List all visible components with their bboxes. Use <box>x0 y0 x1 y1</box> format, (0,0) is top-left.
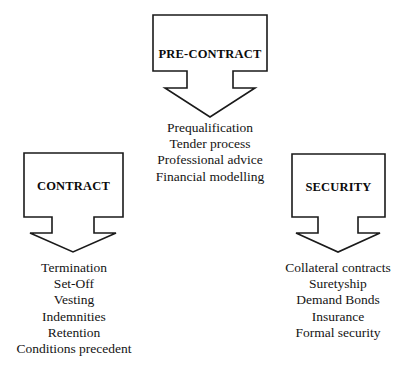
list-item: Termination <box>16 260 131 276</box>
box-arrow-outline <box>24 153 123 252</box>
pre-contract-box-with-arrow: PRE-CONTRACT <box>152 14 268 119</box>
contract-item-list: Termination Set-Off Vesting Indemnities … <box>16 260 131 357</box>
down-arrow-icon <box>291 153 386 253</box>
box-arrow-outline <box>292 154 385 252</box>
diagram-canvas: PRE-CONTRACT Prequalification Tender pro… <box>0 0 409 379</box>
box-arrow-outline <box>153 15 267 117</box>
list-item: Indemnities <box>16 309 131 325</box>
list-item: Insurance <box>285 309 390 325</box>
pre-contract-item-list: Prequalification Tender process Professi… <box>156 120 264 185</box>
list-item: Financial modelling <box>156 169 264 185</box>
list-item: Formal security <box>285 325 390 341</box>
node-pre-contract: PRE-CONTRACT Prequalification Tender pro… <box>152 14 268 119</box>
pre-contract-label: PRE-CONTRACT <box>152 48 268 61</box>
contract-box-with-arrow: CONTRACT <box>23 152 124 253</box>
node-contract: CONTRACT Termination Set-Off Vesting Ind… <box>23 152 124 253</box>
security-item-list: Collateral contracts Suretyship Demand B… <box>285 260 390 341</box>
list-item: Vesting <box>16 292 131 308</box>
list-item: Prequalification <box>156 120 264 136</box>
list-item: Tender process <box>156 136 264 152</box>
list-item: Retention <box>16 325 131 341</box>
contract-label: CONTRACT <box>23 180 124 193</box>
list-item: Suretyship <box>285 276 390 292</box>
security-label: SECURITY <box>291 181 386 194</box>
list-item: Professional advice <box>156 152 264 168</box>
down-arrow-icon <box>23 152 124 253</box>
list-item: Collateral contracts <box>285 260 390 276</box>
security-box-with-arrow: SECURITY <box>291 153 386 253</box>
list-item: Conditions precedent <box>16 341 131 357</box>
down-arrow-icon <box>152 14 268 119</box>
list-item: Set-Off <box>16 276 131 292</box>
list-item: Demand Bonds <box>285 292 390 308</box>
node-security: SECURITY Collateral contracts Suretyship… <box>291 153 386 253</box>
